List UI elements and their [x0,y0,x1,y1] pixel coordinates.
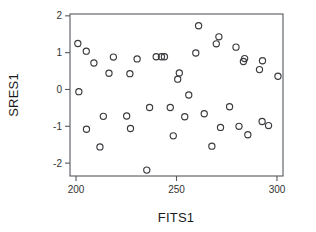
data-point [83,126,89,132]
data-point [106,70,112,76]
x-axis-ticks: 200250300 [68,176,286,195]
data-point [259,58,265,64]
plot-frame [70,14,283,176]
data-point [167,104,173,110]
data-point [182,114,188,120]
x-axis-title: FITS1 [158,210,194,225]
data-point [110,54,116,60]
data-point [91,60,97,66]
x-tick-label: 300 [269,184,286,195]
data-point [170,133,176,139]
y-tick-label: 2 [56,10,62,21]
data-point [226,104,232,110]
data-point [275,73,281,79]
data-point [196,23,202,29]
data-point [209,143,215,149]
y-axis-ticks: 210-1-2 [53,10,70,168]
data-point [100,113,106,119]
data-point [124,113,130,119]
data-point [245,132,251,138]
data-point [256,67,262,73]
data-point [186,92,192,98]
plot-area-border [70,14,283,176]
y-tick-label: -1 [53,121,62,132]
data-point [75,40,81,46]
data-point [175,76,181,82]
data-point [83,48,89,54]
data-point [127,71,133,77]
data-point [193,50,199,56]
data-point [134,56,140,62]
data-point [265,122,271,128]
data-point [216,34,222,40]
data-points-layer [75,23,281,174]
data-point [127,125,133,131]
scatter-plot-figure: 210-1-2 200250300 FITS1 SRES1 [0,0,316,232]
data-point [146,104,152,110]
data-point [201,111,207,117]
y-tick-label: 1 [56,47,62,58]
x-tick-label: 200 [68,184,85,195]
data-point [217,124,223,130]
data-point [233,44,239,50]
data-point [259,118,265,124]
data-point [176,70,182,76]
y-axis-title: SRES1 [6,73,21,117]
data-point [97,144,103,150]
data-point [236,123,242,129]
data-point [144,167,150,173]
data-point [213,41,219,47]
y-tick-label: -2 [53,158,62,169]
data-point [76,89,82,95]
y-tick-label: 0 [56,84,62,95]
plot-canvas: 210-1-2 200250300 FITS1 SRES1 [0,0,316,232]
x-tick-label: 250 [168,184,185,195]
